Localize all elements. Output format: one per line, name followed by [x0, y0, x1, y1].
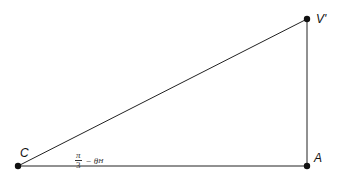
angle-denominator: 3	[76, 161, 81, 170]
point-v	[304, 16, 310, 22]
triangle-diagram	[0, 0, 338, 180]
angle-label: π 3 − θH	[75, 151, 103, 170]
point-a	[304, 163, 310, 169]
angle-subscript: H	[98, 157, 103, 165]
edge-c-v	[18, 19, 307, 166]
angle-fraction: π 3	[75, 151, 82, 170]
point-c	[15, 163, 21, 169]
label-c: C	[20, 147, 29, 159]
label-a: A	[314, 152, 322, 164]
angle-rest: − θ	[86, 156, 99, 166]
label-v: V'	[316, 13, 326, 25]
